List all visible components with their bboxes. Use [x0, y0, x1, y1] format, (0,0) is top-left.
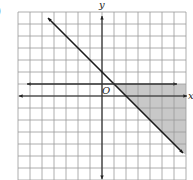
- coordinate-graph: x y O: [0, 0, 193, 180]
- x-axis-label: x: [188, 90, 193, 101]
- y-axis-label: y: [98, 0, 105, 10]
- origin-label: O: [102, 85, 110, 96]
